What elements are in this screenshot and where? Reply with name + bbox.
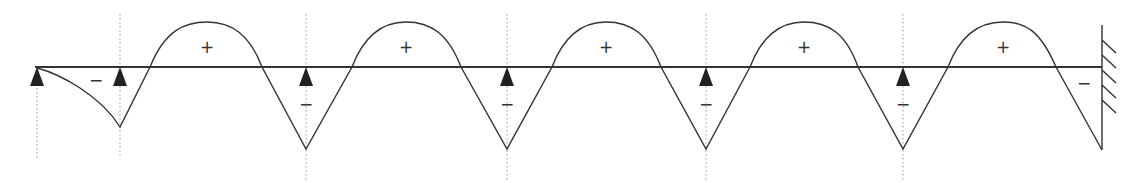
pin-support-icon: [299, 67, 313, 86]
pin-support-icon: [896, 67, 910, 86]
plus-label: +: [797, 37, 811, 57]
plus-label: +: [200, 37, 214, 57]
plus-label: +: [996, 37, 1010, 57]
moment-curve: [37, 22, 1102, 150]
positive-labels: + + + + +: [200, 37, 1010, 57]
minus-label: −: [1077, 73, 1091, 93]
pin-support-icon: [699, 67, 713, 86]
minus-label: −: [299, 94, 313, 114]
minus-label: −: [500, 94, 514, 114]
beam-moment-diagram: + + + + + − − − − − −: [0, 0, 1139, 183]
plus-label: +: [399, 37, 413, 57]
minus-label: −: [699, 94, 713, 114]
plus-label: +: [599, 37, 613, 57]
pin-support-icon: [113, 67, 127, 86]
minus-label: −: [896, 94, 910, 114]
pin-support-icon: [500, 67, 514, 86]
fixed-support-icon: [1102, 25, 1116, 150]
minus-label: −: [89, 70, 103, 90]
negative-labels: − − − − − −: [89, 70, 1091, 114]
